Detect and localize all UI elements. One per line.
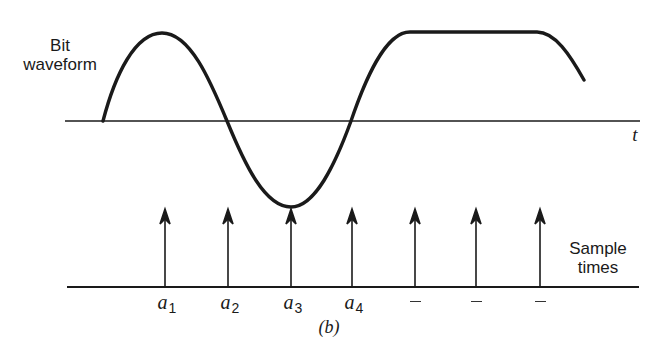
sample-label-line1: Sample xyxy=(560,239,636,258)
sample-label-line2: times xyxy=(560,258,636,277)
sample-arrow-3 xyxy=(286,209,296,287)
sample-label-a4: a4 xyxy=(334,291,374,316)
sample-label-a2: a2 xyxy=(210,291,250,316)
sample-arrow-2 xyxy=(223,209,233,287)
time-axis-label: t xyxy=(628,125,642,144)
sample-times-label: Sample times xyxy=(560,239,636,277)
bit-waveform-curve xyxy=(103,32,584,207)
sample-label-a1: a1 xyxy=(147,291,187,316)
sample-arrow-5 xyxy=(410,209,420,287)
sample-label-dash-5 xyxy=(410,301,421,302)
panel-label: (b) xyxy=(312,318,346,337)
waveform-label-line1: Bit xyxy=(14,36,106,55)
sample-label-dash-6 xyxy=(471,301,482,302)
waveform-label-line2: waveform xyxy=(14,55,106,74)
sample-arrow-1 xyxy=(160,209,170,287)
sample-arrow-6 xyxy=(471,209,481,287)
sample-arrows xyxy=(160,209,545,287)
sample-arrow-4 xyxy=(347,209,357,287)
waveform-label: Bit waveform xyxy=(14,36,106,74)
sample-label-dash-7 xyxy=(535,301,546,302)
sample-label-a3: a3 xyxy=(273,291,313,316)
sample-arrow-7 xyxy=(535,209,545,287)
